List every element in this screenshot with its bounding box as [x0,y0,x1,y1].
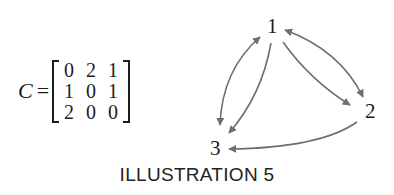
edge-1-3-inner [229,43,271,133]
node-2: 2 [365,99,376,124]
node-3: 3 [210,136,221,161]
edge-2-3 [229,122,357,149]
edge-1-2-inner [283,42,350,105]
edge-3-1-outer [220,37,260,125]
node-1: 1 [267,14,278,39]
illustration-caption: ILLUSTRATION 5 [0,164,394,186]
